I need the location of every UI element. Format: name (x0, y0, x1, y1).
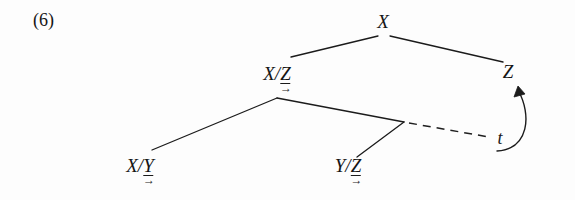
node-yz-directional: Z → (351, 156, 362, 176)
rightward-arrow-icon: → (280, 82, 291, 94)
node-xy: X/ Y → (126, 156, 153, 176)
node-yz-base: Y/ (335, 156, 351, 175)
node-yz: Y/ Z → (335, 156, 361, 176)
edge-xz-to-vertex (277, 98, 404, 122)
tree-edges-layer (0, 0, 575, 200)
node-xz-directional: Z → (280, 64, 291, 84)
edge-xz-to-xy (152, 98, 277, 150)
trace-t: t (497, 129, 502, 147)
rightward-arrow-icon: → (143, 174, 154, 186)
node-xz-base: X/ (263, 64, 280, 83)
edge-root-to-xz (291, 36, 378, 57)
node-xy-base: X/ (126, 156, 143, 175)
figure-canvas: (6) X X/ Z → Z X/ (0, 0, 575, 200)
node-root-label: X (377, 12, 389, 31)
node-z: Z (503, 62, 514, 81)
node-xz: X/ Z → (263, 64, 290, 84)
edge-root-to-z (390, 36, 503, 62)
node-xy-directional: Y → (143, 156, 154, 176)
edge-vertex-to-yz (357, 122, 404, 157)
rightward-arrow-icon: → (350, 174, 361, 186)
dashed-trace-line (409, 123, 489, 137)
node-root: X (377, 12, 389, 31)
node-z-label: Z (503, 62, 514, 81)
